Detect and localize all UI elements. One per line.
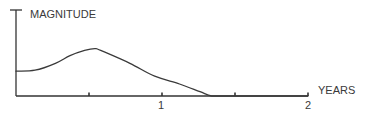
x-tick-label-1: 1 (158, 99, 164, 111)
y-axis-label: MAGNITUDE (30, 8, 96, 20)
magnitude-years-chart: MAGNITUDE YEARS 1 2 (0, 0, 372, 113)
x-axis-label: YEARS (318, 84, 355, 96)
magnitude-curve (16, 49, 308, 96)
x-tick-label-2: 2 (305, 99, 311, 111)
